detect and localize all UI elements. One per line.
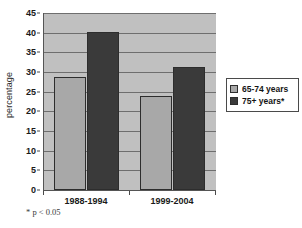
legend-item-label: 75+ years* [242, 96, 284, 106]
y-axis-tick-mark [37, 72, 40, 73]
y-axis-tick-mark [37, 13, 40, 14]
y-axis-title-container: percentage [0, 0, 18, 190]
legend-swatch-icon [230, 85, 238, 93]
y-axis-tick-label: 35 [26, 47, 36, 57]
legend-swatch-icon [230, 97, 238, 105]
chart-legend: 65-74 years 75+ years* [226, 78, 299, 112]
x-axis-tick-labels: 1988-19941999-2004 [43, 191, 216, 207]
plot-area [43, 13, 216, 191]
y-axis-title: percentage [4, 72, 14, 118]
y-axis-tick-mark [37, 52, 40, 53]
y-axis-tick-mark [37, 150, 40, 151]
y-axis-tick-label: 20 [26, 106, 36, 116]
legend-item: 65-74 years [230, 84, 294, 94]
x-axis-tick-mark [215, 191, 216, 195]
y-axis-tick-mark [37, 32, 40, 33]
bar-group [130, 13, 216, 190]
y-axis-tick-label: 30 [26, 67, 36, 77]
y-axis-tick-label: 10 [26, 146, 36, 156]
legend-item-label: 65-74 years [242, 84, 288, 94]
y-axis-tick-label: 5 [31, 165, 36, 175]
y-axis-tick-mark [37, 91, 40, 92]
bar-group [44, 13, 130, 190]
x-axis-tick-mark [129, 191, 130, 195]
y-axis-tick-mark [37, 190, 40, 191]
y-axis-tick-label: 25 [26, 87, 36, 97]
y-axis-tick-label: 15 [26, 126, 36, 136]
y-axis-tick-mark [37, 131, 40, 132]
x-axis-tick-label: 1988-1994 [64, 196, 107, 206]
bars-container [44, 13, 216, 190]
bar [173, 67, 205, 191]
bar [140, 96, 172, 190]
x-axis-tick-label: 1999-2004 [150, 196, 193, 206]
legend-item: 75+ years* [230, 96, 294, 106]
bar [54, 77, 86, 190]
y-axis-tick-label: 0 [31, 185, 36, 195]
y-axis-tick-labels: 051015202530354045 [18, 13, 40, 190]
bar [87, 32, 119, 191]
y-axis-tick-mark [37, 111, 40, 112]
footnote: * p < 0.05 [26, 207, 61, 217]
x-axis-tick-mark [43, 191, 44, 195]
y-axis-tick-label: 40 [26, 28, 36, 38]
y-axis-tick-mark [37, 170, 40, 171]
y-axis-tick-label: 45 [26, 8, 36, 18]
bar-chart-figure: percentage 051015202530354045 1988-19941… [0, 0, 302, 228]
